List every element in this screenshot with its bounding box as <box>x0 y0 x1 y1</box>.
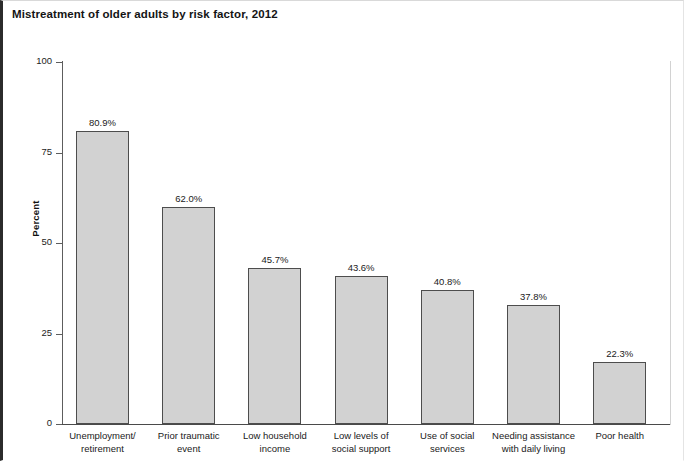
bar-value-label: 43.6% <box>321 262 402 273</box>
bar-value-label: 40.8% <box>407 276 488 287</box>
y-tick-50: 50 <box>0 243 62 244</box>
bar <box>421 290 474 424</box>
bar <box>593 362 646 424</box>
bar-value-label: 80.9% <box>62 117 143 128</box>
y-tick-label: 75 <box>41 146 52 157</box>
x-axis-line <box>62 424 671 425</box>
y-tick-100: 100 <box>0 62 62 63</box>
y-tick-mark <box>56 424 62 425</box>
y-tick-75: 75 <box>0 153 62 154</box>
bar-value-label: 37.8% <box>493 291 574 302</box>
chart-figure: Mistreatment of older adults by risk fac… <box>0 0 684 461</box>
category-label: Low levels of social support <box>318 430 405 455</box>
bar-value-label: 45.7% <box>234 254 315 265</box>
y-tick-label: 50 <box>41 236 52 247</box>
category-label: Needing assistance with daily living <box>490 430 577 455</box>
plot-right-edge <box>670 61 671 425</box>
page-title: Mistreatment of older adults by risk fac… <box>12 8 278 20</box>
category-label: Poor health <box>576 430 663 443</box>
y-tick-mark <box>56 334 62 335</box>
y-tick-mark <box>56 62 62 63</box>
y-tick-label: 25 <box>41 327 52 338</box>
bar <box>76 131 129 424</box>
y-tick-label: 100 <box>36 55 52 66</box>
bar-value-label: 22.3% <box>579 348 660 359</box>
category-label: Low household income <box>231 430 318 455</box>
y-tick-label: 0 <box>47 417 52 428</box>
y-tick-mark <box>56 243 62 244</box>
y-axis-label: Percent <box>30 189 41 249</box>
bar-value-label: 62.0% <box>148 193 229 204</box>
bar <box>248 268 301 424</box>
bar <box>335 276 388 424</box>
y-tick-0: 0 <box>0 424 62 425</box>
y-axis-line <box>62 61 63 425</box>
y-tick-mark <box>56 153 62 154</box>
category-label: Prior traumatic event <box>145 430 232 455</box>
bar <box>162 207 215 424</box>
y-tick-25: 25 <box>0 334 62 335</box>
category-label: Use of social services <box>404 430 491 455</box>
category-label: Unemployment/ retirement <box>59 430 146 455</box>
bar <box>507 305 560 424</box>
